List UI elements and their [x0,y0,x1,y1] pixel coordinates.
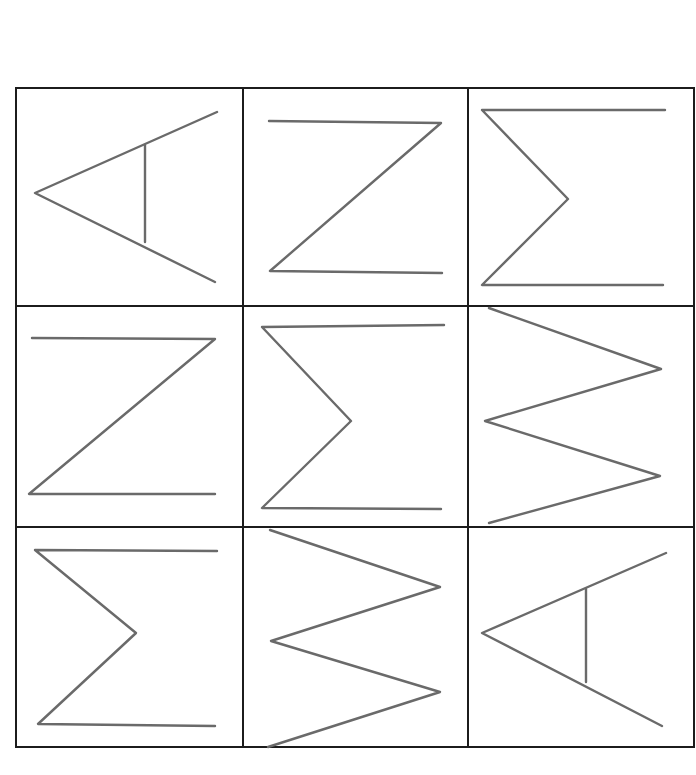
arrowhead-left-with-bar-icon [482,553,666,726]
sigma-shape-icon [482,110,665,285]
cell-r1-c1 [35,112,217,282]
z-shape-icon [29,338,215,494]
cell-r3-c3 [482,553,666,726]
sigma-shape-icon [35,550,217,726]
cell-r2-c1 [29,338,215,494]
cell-r3-c2 [268,530,440,747]
shape-matrix [0,0,696,775]
z-shape-icon [269,121,442,273]
cell-r1-c3 [482,110,665,285]
grid-outer-border [16,88,694,747]
zigzag-shape-icon [268,530,440,747]
cell-r3-c1 [35,550,217,726]
cell-r2-c3 [485,308,661,523]
zigzag-shape-icon [485,308,661,523]
grid-lines [16,88,694,747]
arrowhead-left-with-bar-icon [35,112,217,282]
cell-r2-c2 [262,325,444,509]
sigma-shape-icon [262,325,444,509]
cell-r1-c2 [269,121,442,273]
